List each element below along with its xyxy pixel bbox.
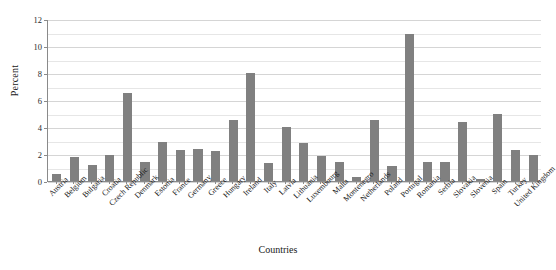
bar [123, 93, 132, 181]
bar [193, 149, 202, 181]
y-tick-label: 4 [17, 124, 42, 133]
x-axis-tick-labels: AustriaBelgiumBulgariaCroatiaCzech Repub… [47, 184, 541, 244]
y-tick-label: 12 [17, 16, 42, 25]
plot-area [47, 20, 541, 182]
bar [458, 122, 467, 181]
x-axis-title: Countries [0, 244, 556, 255]
y-tick-label: 8 [17, 70, 42, 79]
bar [158, 142, 167, 181]
y-tick-mark [44, 155, 47, 156]
y-tick-label: 0 [17, 178, 42, 187]
bar-chart: Percent 024681012 AustriaBelgiumBulgaria… [0, 0, 556, 270]
y-tick-label: 6 [17, 97, 42, 106]
y-tick-mark [44, 47, 47, 48]
y-tick-mark [44, 128, 47, 129]
y-tick-mark [44, 74, 47, 75]
bar [211, 151, 220, 181]
bar [511, 150, 520, 181]
y-tick-mark [44, 182, 47, 183]
bar [229, 120, 238, 181]
bar [405, 34, 414, 181]
y-tick-label: 2 [17, 151, 42, 160]
bar [246, 73, 255, 181]
y-tick-mark [44, 20, 47, 21]
bar [299, 143, 308, 181]
y-tick-mark [44, 101, 47, 102]
bars-group [48, 20, 541, 181]
bar [282, 127, 291, 181]
bar [493, 114, 502, 182]
y-tick-label: 10 [17, 43, 42, 52]
